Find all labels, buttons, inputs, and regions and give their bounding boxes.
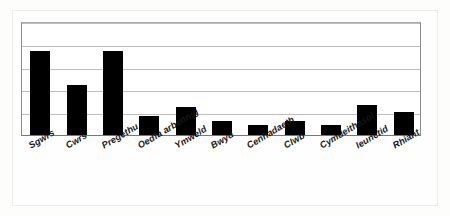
bar xyxy=(67,85,87,135)
bar xyxy=(30,51,50,135)
bar xyxy=(103,51,123,135)
bar-chart-figure: SgwrsCwrsPregethuOedfa arbennigYmweldBwy… xyxy=(0,0,450,216)
category-axis-labels: SgwrsCwrsPregethuOedfa arbennigYmweldBwy… xyxy=(21,136,421,212)
